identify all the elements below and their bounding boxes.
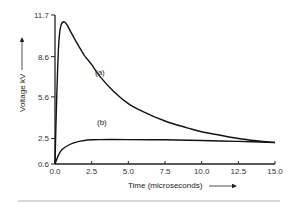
- voltage-time-chart: 0.62.55.68.611.7 0.02.55.07.510.012.515.…: [0, 0, 296, 203]
- curves: [55, 22, 275, 164]
- x-tick-label: 5.0: [123, 167, 135, 176]
- x-axis-title: Time (microseconds): [128, 181, 236, 190]
- x-axis-label: Time (microseconds): [128, 181, 203, 190]
- y-ticks: 0.62.55.68.611.7: [34, 11, 55, 169]
- y-tick-label: 11.7: [34, 11, 50, 20]
- y-tick-label: 0.6: [38, 160, 50, 169]
- x-tick-label: 10.0: [194, 167, 210, 176]
- x-ticks: 0.02.55.07.510.012.515.0: [49, 161, 283, 176]
- curve-b-line: [55, 140, 275, 164]
- y-tick-label: 2.5: [38, 134, 50, 143]
- x-tick-label: 2.5: [86, 167, 98, 176]
- x-tick-label: 7.5: [159, 167, 171, 176]
- curve-b-label: (b): [97, 118, 107, 127]
- x-tick-label: 12.5: [231, 167, 247, 176]
- y-tick-label: 5.6: [38, 93, 50, 102]
- y-axis-label: Voltage kV: [18, 73, 27, 112]
- x-tick-label: 15.0: [267, 167, 283, 176]
- y-tick-label: 8.6: [38, 53, 50, 62]
- bottom-divider: [18, 200, 280, 202]
- curve-a-line: [55, 22, 275, 164]
- x-tick-label: 0.0: [49, 167, 61, 176]
- curve-a-label: (a): [95, 68, 105, 77]
- y-axis-title: Voltage kV: [18, 38, 27, 112]
